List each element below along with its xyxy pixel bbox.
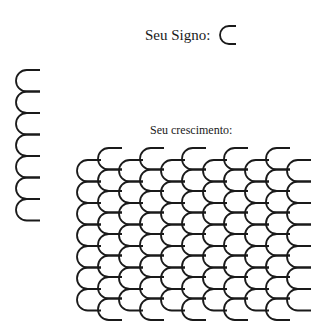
sign-row: Seu Signo: [145,20,240,50]
c-arc-icon [16,135,40,157]
c-arc-icon [287,268,311,290]
growth-scale-grid [70,140,320,325]
c-arc-icon [98,148,122,170]
c-arc-icon [216,23,240,47]
c-arc-icon [287,182,311,204]
left-arc-stack [12,66,42,246]
sign-label: Seu Signo: [145,28,210,43]
c-arc-icon [287,289,311,311]
c-arc-icon [16,199,40,221]
c-arc-icon [140,148,164,170]
c-arc-icon [287,246,311,268]
c-arc-icon [287,225,311,247]
c-arc-icon [266,148,290,170]
c-arc-icon [16,178,40,200]
c-arc-icon [287,160,311,182]
c-arc-icon [182,148,206,170]
c-arc-icon [16,113,40,135]
c-arc-icon [16,156,40,178]
c-arc-icon [287,203,311,225]
c-arc-icon [224,148,248,170]
growth-label: Seu crescimento: [150,124,232,136]
c-arc-icon [16,92,40,114]
c-arc-icon [16,70,40,92]
